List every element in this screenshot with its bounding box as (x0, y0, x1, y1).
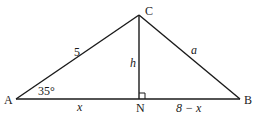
vertex-label-C: C (145, 4, 153, 18)
vertex-label-N: N (136, 101, 145, 115)
right-angle-marker (139, 93, 145, 99)
side-label-CN: h (130, 56, 136, 70)
vertex-label-A: A (4, 93, 13, 107)
segment-CB (139, 15, 240, 99)
triangle-diagram: C A B N 5 a h x 8 − x 35° (0, 0, 256, 115)
angle-label-A: 35° (38, 84, 55, 98)
side-label-NB: 8 − x (176, 101, 202, 115)
side-label-AC: 5 (74, 45, 80, 59)
side-label-CB: a (191, 43, 197, 57)
side-label-AN: x (76, 100, 83, 114)
vertex-label-B: B (244, 93, 252, 107)
